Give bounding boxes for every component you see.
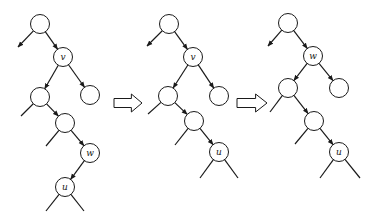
directed-edge bbox=[294, 95, 308, 113]
subtree-edge bbox=[270, 96, 282, 112]
node-circle bbox=[210, 87, 229, 106]
directed-edge bbox=[294, 31, 308, 49]
node-circle bbox=[31, 15, 50, 34]
node-label: u bbox=[62, 182, 68, 192]
tree-1-nodes: vwu bbox=[31, 15, 100, 197]
subtree-edge bbox=[148, 102, 161, 114]
directed-edge bbox=[320, 128, 333, 144]
node bbox=[31, 88, 50, 107]
node bbox=[279, 14, 298, 33]
subtree-edge bbox=[320, 160, 333, 178]
node bbox=[305, 112, 324, 131]
node-w: w bbox=[304, 47, 323, 66]
node-label: v bbox=[190, 52, 195, 62]
node-circle bbox=[160, 15, 179, 34]
tree-2-nodes: vu bbox=[159, 15, 229, 162]
directed-edge bbox=[47, 104, 59, 116]
node-w: w bbox=[81, 144, 100, 163]
subtree-edge bbox=[21, 104, 33, 116]
node-circle bbox=[81, 86, 100, 105]
node-circle bbox=[330, 79, 349, 98]
directed-edge bbox=[18, 31, 33, 47]
directed-edge bbox=[200, 128, 213, 144]
node-circle bbox=[305, 112, 324, 131]
node-u: u bbox=[210, 143, 229, 162]
node-circle bbox=[279, 79, 298, 98]
tree-rotation-diagram: vwuvuwu bbox=[0, 0, 376, 223]
node-label: w bbox=[86, 148, 94, 158]
node bbox=[56, 114, 75, 133]
node-v: v bbox=[184, 48, 203, 67]
transition-arrows-layer bbox=[114, 94, 267, 112]
directed-edge bbox=[173, 65, 188, 88]
node-label: v bbox=[60, 52, 65, 62]
directed-edge bbox=[294, 63, 307, 80]
node-label: u bbox=[336, 147, 342, 157]
node-u: u bbox=[56, 178, 75, 197]
node-v: v bbox=[54, 48, 73, 67]
hollow-right-arrow-icon bbox=[237, 94, 267, 112]
node-label: u bbox=[216, 147, 222, 157]
node-circle bbox=[56, 114, 75, 133]
directed-edge bbox=[198, 65, 213, 88]
node-u: u bbox=[330, 143, 349, 162]
directed-edge bbox=[69, 65, 85, 88]
directed-edge bbox=[45, 32, 57, 49]
subtree-edge bbox=[71, 194, 84, 211]
subtree-edge bbox=[200, 160, 213, 178]
node bbox=[81, 86, 100, 105]
node bbox=[31, 15, 50, 34]
tree-3-nodes: wu bbox=[279, 14, 349, 162]
subtree-edge bbox=[225, 160, 238, 178]
node-circle bbox=[185, 112, 204, 131]
subtree-edge bbox=[46, 130, 59, 146]
directed-edge bbox=[268, 30, 282, 46]
hollow-right-arrow-icon bbox=[114, 94, 142, 112]
node bbox=[279, 79, 298, 98]
subtree-edge bbox=[46, 194, 59, 211]
directed-edge bbox=[71, 161, 85, 180]
node-circle bbox=[31, 88, 50, 107]
directed-edge bbox=[71, 130, 84, 145]
subtree-edge bbox=[345, 159, 360, 178]
node-label: w bbox=[309, 51, 317, 61]
node bbox=[159, 87, 178, 106]
subtree-edge bbox=[295, 128, 308, 144]
node-circle bbox=[159, 87, 178, 106]
node bbox=[160, 15, 179, 34]
node bbox=[185, 112, 204, 131]
directed-edge bbox=[175, 103, 187, 115]
directed-edge bbox=[147, 31, 162, 46]
directed-edge bbox=[175, 32, 188, 50]
node-circle bbox=[279, 14, 298, 33]
node bbox=[330, 79, 349, 98]
directed-edge bbox=[45, 65, 59, 89]
subtree-edge bbox=[175, 128, 188, 145]
directed-edge bbox=[319, 63, 333, 80]
node bbox=[210, 87, 229, 106]
